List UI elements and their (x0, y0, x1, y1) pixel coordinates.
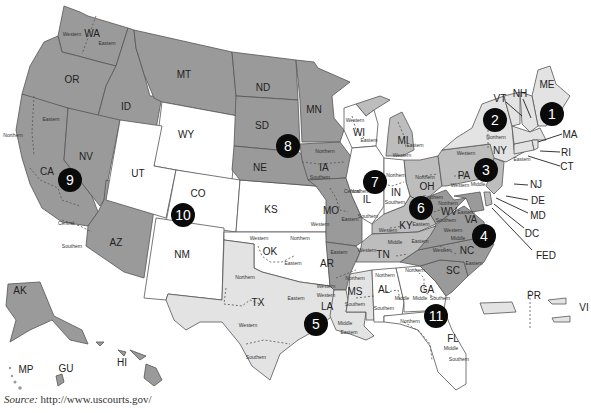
territory-pr (480, 302, 516, 314)
label-ga: GA (420, 284, 435, 295)
label-wy: WY (178, 129, 194, 140)
svg-text:Western: Western (444, 227, 463, 233)
svg-text:Central: Central (58, 220, 74, 226)
svg-text:Middle: Middle (388, 239, 403, 245)
svg-text:9: 9 (66, 172, 74, 188)
svg-text:Eastern: Eastern (465, 260, 482, 266)
svg-text:Middle: Middle (444, 345, 459, 351)
label-wv: WV (441, 206, 457, 217)
svg-text:Southern: Southern (385, 199, 406, 205)
svg-text:Western: Western (451, 182, 470, 188)
svg-text:Eastern: Eastern (411, 238, 428, 244)
label-md: MD (530, 210, 546, 221)
label-ca: CA (40, 166, 54, 177)
label-mn: MN (306, 104, 322, 115)
svg-text:3: 3 (482, 162, 490, 178)
svg-text:Southern: Southern (449, 356, 470, 362)
circuit-7-marker: 7 (363, 170, 387, 194)
label-gu: GU (59, 363, 74, 374)
svg-text:Middle: Middle (413, 295, 428, 301)
circuit-2-marker: 2 (483, 108, 507, 132)
svg-text:8: 8 (284, 138, 292, 154)
label-sc: SC (446, 265, 460, 276)
svg-text:10: 10 (175, 207, 191, 223)
territory-gu (56, 374, 64, 386)
svg-text:Western: Western (433, 247, 452, 253)
svg-text:Western: Western (457, 150, 476, 156)
svg-text:11: 11 (429, 308, 444, 324)
label-fl: FL (447, 333, 459, 344)
source-label: Source: (4, 393, 38, 405)
svg-text:Eastern: Eastern (412, 221, 429, 227)
svg-text:Eastern: Eastern (406, 142, 423, 148)
svg-text:Middle: Middle (338, 320, 353, 326)
circuit-4-marker: 4 (472, 224, 496, 248)
svg-text:5: 5 (312, 316, 320, 332)
label-ok: OK (263, 246, 278, 257)
label-sd: SD (255, 120, 269, 131)
label-in: IN (391, 187, 401, 198)
circuit-9-marker: 9 (58, 168, 82, 192)
circuit-3-marker: 3 (474, 158, 498, 182)
label-az: AZ (110, 237, 123, 248)
label-tx: TX (252, 297, 265, 308)
label-ut: UT (131, 168, 144, 179)
svg-text:Eastern: Eastern (457, 209, 474, 215)
label-id: ID (121, 101, 131, 112)
label-ny: NY (493, 145, 507, 156)
svg-text:Northern: Northern (345, 275, 365, 281)
svg-text:Northern: Northern (375, 272, 395, 278)
svg-text:Western: Western (358, 247, 377, 253)
circuit-10-marker: 10 (171, 203, 195, 227)
svg-text:Western: Western (393, 152, 412, 158)
label-ar: AR (320, 258, 334, 269)
label-ne: NE (253, 162, 267, 173)
svg-text:Eastern: Eastern (287, 295, 304, 301)
label-tn: TN (376, 249, 389, 260)
svg-text:Southern: Southern (246, 354, 267, 360)
svg-text:4: 4 (480, 228, 488, 244)
label-ks: KS (264, 204, 278, 215)
label-ak: AK (13, 285, 27, 296)
svg-text:Northern: Northern (315, 148, 335, 154)
svg-text:7: 7 (371, 174, 379, 190)
territory-vi (548, 298, 570, 322)
svg-text:Western: Western (311, 221, 330, 227)
svg-text:Western: Western (63, 31, 82, 37)
source-url[interactable]: http://www.uscourts.gov/ (41, 393, 152, 405)
label-nv: NV (79, 151, 93, 162)
svg-text:Eastern: Eastern (42, 116, 59, 122)
label-ct: CT (560, 161, 573, 172)
state-hi (96, 342, 162, 386)
circuit-1-marker: 1 (540, 102, 564, 126)
svg-text:Southern: Southern (358, 213, 379, 219)
circuit-8-marker: 8 (276, 134, 300, 158)
label-oh: OH (420, 181, 435, 192)
label-ri: RI (561, 147, 571, 158)
svg-text:Southern: Southern (345, 301, 366, 307)
label-me: ME (540, 79, 555, 90)
label-ms: MS (348, 286, 363, 297)
svg-text:Western: Western (379, 227, 398, 233)
svg-text:Eastern: Eastern (330, 249, 347, 255)
label-nh: NH (513, 88, 527, 99)
svg-text:Northern: Northern (415, 174, 435, 180)
svg-text:Eastern: Eastern (341, 216, 358, 222)
state-mn (296, 60, 350, 142)
svg-text:Middle: Middle (395, 295, 410, 301)
svg-text:Northern: Northern (290, 235, 310, 241)
label-ky: KY (399, 220, 413, 231)
label-ma: MA (563, 129, 578, 140)
label-il: IL (363, 194, 372, 205)
svg-text:Northern: Northern (438, 200, 458, 206)
svg-text:Western: Western (317, 292, 336, 298)
label-va: VA (465, 214, 478, 225)
label-al: AL (378, 284, 391, 295)
svg-text:Southern: Southern (436, 217, 457, 223)
label-nc: NC (460, 245, 474, 256)
label-mo: MO (323, 205, 339, 216)
label-nm: NM (174, 249, 190, 260)
label-vt: VT (494, 93, 507, 104)
label-pa: PA (458, 170, 471, 181)
svg-text:Eastern: Eastern (284, 260, 301, 266)
